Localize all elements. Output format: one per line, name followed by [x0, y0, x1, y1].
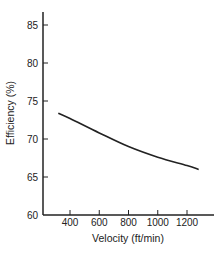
x-tick-label: 600: [91, 217, 108, 228]
y-tick-label: 70: [27, 134, 39, 145]
y-tick-label: 75: [27, 96, 39, 107]
x-tick-label: 800: [120, 217, 137, 228]
efficiency-curve: [58, 113, 198, 169]
y-ticks: 606570758085: [27, 20, 48, 221]
y-tick-label: 80: [27, 58, 39, 69]
x-axis-title: Velocity (ft/min): [92, 232, 164, 244]
efficiency-chart: 606570758085 40060080010001200 Velocity …: [0, 0, 224, 255]
x-ticks: 40060080010001200: [62, 210, 199, 228]
y-tick-label: 65: [27, 172, 39, 183]
y-tick-label: 60: [27, 210, 39, 221]
axes: [43, 12, 214, 215]
x-tick-label: 400: [62, 217, 79, 228]
y-axis-title: Efficiency (%): [4, 81, 16, 145]
x-tick-label: 1000: [147, 217, 170, 228]
x-tick-label: 1200: [176, 217, 199, 228]
y-tick-label: 85: [27, 20, 39, 31]
